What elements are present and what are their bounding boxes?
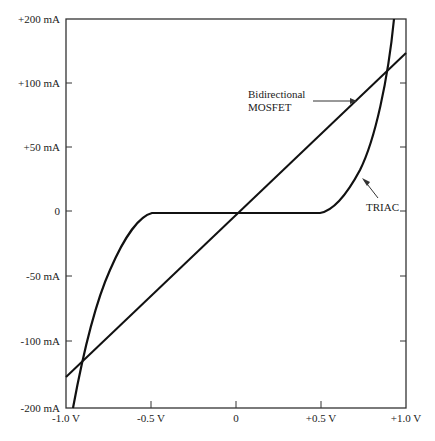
x-tick-label: -0.5 V [137, 412, 165, 424]
y-tick-label: +50 mA [24, 141, 61, 153]
series-triac [73, 19, 394, 408]
annotation-mosfet-line2: MOSFET [248, 101, 292, 113]
chart: +200 mA +100 mA +50 mA 0 -50 mA -100 mA … [0, 0, 435, 441]
x-tick-label: +1.0 V [391, 412, 422, 424]
y-tick-label: -100 mA [21, 335, 60, 347]
y-tick-label: 0 [55, 205, 61, 217]
annotation-mosfet-line1: Bidirectional [248, 88, 305, 100]
x-tick-label: -1.0 V [52, 412, 80, 424]
arrow-head-icon [362, 178, 370, 186]
y-tick-label: +200 mA [18, 13, 60, 25]
y-tick-label: -50 mA [26, 270, 60, 282]
x-tick-label: 0 [233, 412, 239, 424]
annotation-triac: TRIAC [366, 201, 399, 213]
x-tick-label: +0.5 V [306, 412, 337, 424]
y-tick-label: +100 mA [18, 77, 60, 89]
x-ticks [151, 401, 321, 408]
